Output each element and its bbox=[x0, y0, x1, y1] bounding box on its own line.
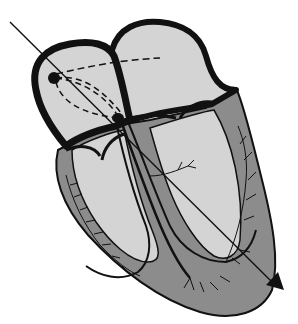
sinoatrial-node bbox=[48, 72, 60, 84]
atrioventricular-node bbox=[112, 113, 124, 123]
heart-conduction-diagram bbox=[0, 0, 298, 324]
heart-diagram-svg bbox=[0, 0, 298, 324]
